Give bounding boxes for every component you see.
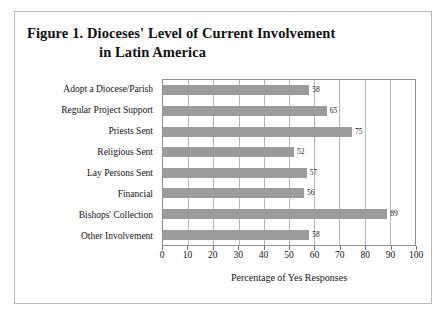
bar [163, 85, 309, 95]
figure-frame: Figure 1. Dioceses' Level of Current Inv… [14, 11, 432, 304]
bar-row: 65 [163, 106, 415, 116]
figure-title-line-1: Figure 1. Dioceses' Level of Current Inv… [27, 25, 335, 41]
bar [163, 147, 294, 157]
x-axis-tick-labels: 0102030405060708090100 [162, 250, 416, 264]
x-tick-label: 80 [360, 250, 370, 260]
bar-row: 58 [163, 230, 415, 240]
x-tick-label: 50 [284, 250, 294, 260]
bar-value-label: 52 [294, 148, 305, 157]
bar-value-label: 58 [309, 230, 320, 239]
bar-value-label: 56 [304, 189, 315, 198]
bar [163, 127, 352, 137]
x-tick-label: 40 [259, 250, 269, 260]
bar-value-label: 58 [309, 86, 320, 95]
bar [163, 106, 327, 116]
bar [163, 168, 307, 178]
category-label-6: Bishops' Collection [15, 210, 153, 220]
bar-row: 89 [163, 209, 415, 219]
x-axis-title: Percentage of Yes Responses [162, 272, 416, 283]
bar-row: 57 [163, 168, 415, 178]
category-label-0: Adopt a Diocese/Parish [15, 84, 153, 94]
bar-value-label: 75 [352, 127, 363, 136]
x-tick-label: 0 [160, 250, 165, 260]
x-tick-label: 60 [310, 250, 320, 260]
bar-row: 56 [163, 188, 415, 198]
figure-title: Figure 1. Dioceses' Level of Current Inv… [27, 24, 421, 62]
bar [163, 188, 304, 198]
x-tick-label: 70 [335, 250, 345, 260]
category-label-2: Priests Sent [15, 126, 153, 136]
x-tick-label: 100 [409, 250, 423, 260]
category-axis-labels: Adopt a Diocese/ParishRegular Project Su… [15, 79, 158, 246]
x-tick-label: 10 [183, 250, 193, 260]
category-label-5: Financial [15, 189, 153, 199]
x-tick-label: 20 [208, 250, 218, 260]
bar [163, 209, 387, 219]
x-tick-label: 30 [233, 250, 243, 260]
figure-title-line-2: in Latin America [27, 43, 421, 62]
bar-row: 75 [163, 127, 415, 137]
bar-value-label: 89 [387, 209, 398, 218]
bar-series: 5865755257568958 [163, 80, 415, 245]
bar-value-label: 57 [307, 168, 318, 177]
plot-area: 5865755257568958 [162, 79, 416, 246]
category-label-4: Lay Persons Sent [15, 168, 153, 178]
x-tick-label: 90 [386, 250, 396, 260]
bar-value-label: 65 [327, 106, 338, 115]
bar-row: 52 [163, 147, 415, 157]
category-label-3: Religious Sent [15, 147, 153, 157]
bar [163, 230, 309, 240]
bar-row: 58 [163, 85, 415, 95]
category-label-7: Other Involvement [15, 231, 153, 241]
category-label-1: Regular Project Support [15, 105, 153, 115]
